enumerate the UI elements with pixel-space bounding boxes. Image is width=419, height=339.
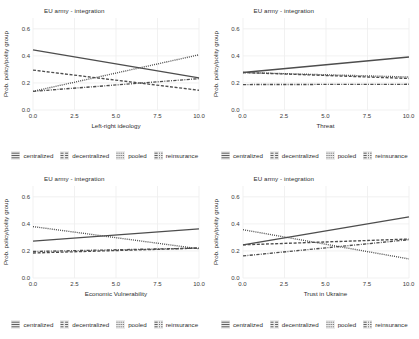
legend-key-centralized-icon [11, 320, 20, 329]
legend-key-pooled-icon [326, 151, 335, 160]
x-tick-label: 7.5 [153, 281, 161, 287]
x-tick-label: 0.0 [29, 281, 37, 287]
legend-label: centralized [23, 152, 53, 159]
x-axis-label: Left-right ideology [33, 122, 199, 129]
legend-item-pooled[interactable]: pooled [326, 151, 357, 160]
legend-key-reinsurance-icon [363, 320, 372, 329]
plot-area-wrap: Prob. policy/polity group 0.00.20.40.6 0… [0, 14, 210, 168]
x-tick-label: 5.0 [112, 281, 120, 287]
legend-item-pooled[interactable]: pooled [326, 320, 357, 329]
legend-label: pooled [128, 321, 147, 328]
y-axis-ticks: 0.00.20.40.6 [11, 182, 30, 339]
y-axis-label: Prob. policy/polity group [211, 189, 218, 275]
legend-label: decentralized [282, 152, 319, 159]
x-tick-label: 2.5 [280, 281, 288, 287]
x-tick-label: 5.0 [321, 281, 329, 287]
x-tick-label: 10.0 [403, 113, 415, 119]
legend-item-decentralized[interactable]: decentralized [270, 320, 319, 329]
legend-key-centralized-icon [11, 151, 20, 160]
x-tick-label: 10.0 [193, 113, 205, 119]
panel-economic-vulnerability: EU army - integration Prob. policy/polit… [0, 168, 210, 339]
plot-canvas [243, 186, 409, 278]
legend-item-decentralized[interactable]: decentralized [60, 320, 109, 329]
chart-svg [243, 186, 409, 278]
legend-item-reinsurance[interactable]: reinsurance [154, 320, 198, 329]
x-axis-label: Threat [243, 122, 409, 129]
plot-canvas [33, 186, 199, 278]
y-tick-label: 0.2 [231, 248, 239, 254]
legend-key-decentralized-icon [270, 320, 279, 329]
x-axis-label: Trust in Ukraine [243, 290, 409, 297]
legend-key-decentralized-icon [60, 320, 69, 329]
x-tick-label: 0.0 [29, 113, 37, 119]
legend-item-reinsurance[interactable]: reinsurance [154, 151, 198, 160]
legend-label: centralized [233, 321, 263, 328]
legend-label: pooled [338, 152, 357, 159]
chart-svg [243, 18, 409, 110]
x-axis-label: Economic Vulnerability [33, 290, 199, 297]
y-tick-label: 0.4 [231, 221, 239, 227]
panel-title: EU army - integration [44, 7, 210, 14]
legend-key-reinsurance-icon [154, 151, 163, 160]
y-axis-label: Prob. policy/polity group [2, 189, 9, 275]
legend-label: reinsurance [166, 321, 198, 328]
plot-area-wrap: Prob. policy/polity group 0.00.20.40.6 0… [210, 182, 419, 339]
legend-item-centralized[interactable]: centralized [11, 151, 53, 160]
panel-left-right-ideology: EU army - integration Prob. policy/polit… [0, 0, 210, 168]
x-tick-label: 0.0 [238, 113, 246, 119]
figure-panel-grid: EU army - integration Prob. policy/polit… [0, 0, 419, 339]
panel-title: EU army - integration [44, 175, 210, 182]
legend: centralizeddecentralizedpooledreinsuranc… [0, 320, 210, 329]
legend-item-reinsurance[interactable]: reinsurance [363, 151, 407, 160]
legend-label: pooled [128, 152, 147, 159]
plot-canvas [33, 18, 199, 110]
plot-area-wrap: Prob. policy/polity group 0.00.20.40.6 0… [0, 182, 210, 339]
legend-key-pooled-icon [326, 320, 335, 329]
legend-key-decentralized-icon [60, 151, 69, 160]
legend-label: centralized [23, 321, 53, 328]
y-tick-label: 0.6 [22, 194, 30, 200]
legend-label: decentralized [72, 321, 109, 328]
legend-item-reinsurance[interactable]: reinsurance [363, 320, 407, 329]
plot-canvas [243, 18, 409, 110]
legend-key-centralized-icon [221, 151, 230, 160]
legend-key-pooled-icon [116, 151, 125, 160]
legend-item-centralized[interactable]: centralized [221, 151, 263, 160]
legend-key-reinsurance-icon [363, 151, 372, 160]
legend: centralizeddecentralizedpooledreinsuranc… [210, 151, 419, 160]
legend-item-decentralized[interactable]: decentralized [270, 151, 319, 160]
legend-key-reinsurance-icon [154, 320, 163, 329]
y-axis-label: Prob. policy/polity group [2, 21, 9, 107]
legend-item-decentralized[interactable]: decentralized [60, 151, 109, 160]
y-tick-label: 0.2 [22, 248, 30, 254]
y-axis-ticks: 0.00.20.40.6 [11, 14, 30, 168]
x-tick-label: 2.5 [70, 281, 78, 287]
legend-label: reinsurance [166, 152, 198, 159]
y-tick-label: 0.6 [231, 26, 239, 32]
y-tick-label: 0.6 [231, 194, 239, 200]
legend-item-pooled[interactable]: pooled [116, 320, 147, 329]
legend-item-pooled[interactable]: pooled [116, 151, 147, 160]
legend-key-centralized-icon [221, 320, 230, 329]
legend-label: reinsurance [375, 152, 407, 159]
y-tick-label: 0.2 [231, 80, 239, 86]
legend-key-pooled-icon [116, 320, 125, 329]
legend-label: centralized [233, 152, 263, 159]
chart-svg [33, 186, 199, 278]
y-axis-label: Prob. policy/polity group [211, 21, 218, 107]
legend: centralizeddecentralizedpooledreinsuranc… [210, 320, 419, 329]
x-tick-label: 10.0 [193, 281, 205, 287]
x-tick-label: 10.0 [403, 281, 415, 287]
x-tick-label: 2.5 [280, 113, 288, 119]
legend-label: decentralized [72, 152, 109, 159]
legend-item-centralized[interactable]: centralized [11, 320, 53, 329]
chart-svg [33, 18, 199, 110]
panel-threat: EU army - integration Prob. policy/polit… [210, 0, 419, 168]
y-axis-ticks: 0.00.20.40.6 [221, 182, 240, 339]
x-tick-label: 5.0 [112, 113, 120, 119]
panel-title: EU army - integration [254, 175, 419, 182]
x-tick-label: 0.0 [238, 281, 246, 287]
x-tick-label: 5.0 [321, 113, 329, 119]
legend-item-centralized[interactable]: centralized [221, 320, 263, 329]
panel-trust-in-ukraine: EU army - integration Prob. policy/polit… [210, 168, 419, 339]
